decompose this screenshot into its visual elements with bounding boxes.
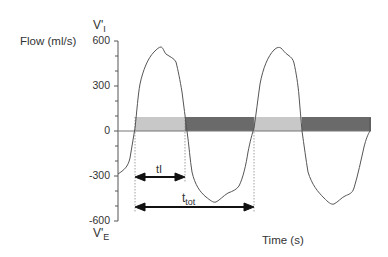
y-tick-300: 300 <box>80 79 110 91</box>
ti-label: tI <box>156 163 162 175</box>
y-axis <box>114 41 118 221</box>
v-expired-label: V'E <box>93 226 109 242</box>
v-expired-sub: E <box>103 232 109 242</box>
inspiration-bar-1 <box>135 117 185 131</box>
y-tick-minus-600: -600 <box>80 214 110 226</box>
y-tick-minus-300: -300 <box>80 169 110 181</box>
inspiration-bar-2 <box>254 117 302 131</box>
flow-axis-label: Flow (ml/s) <box>20 35 76 47</box>
expiration-bar-1 <box>185 117 254 131</box>
y-tick-600: 600 <box>80 34 110 46</box>
v-inspired-label: V'I <box>93 18 106 34</box>
v-expired-main: V' <box>93 226 103 240</box>
v-inspired-main: V' <box>93 18 103 32</box>
phase-bars <box>135 117 371 131</box>
y-tick-0: 0 <box>80 124 110 136</box>
ttot-sub: tot <box>185 197 195 207</box>
ttot-label: ttot <box>182 191 195 207</box>
expiration-bar-2 <box>302 117 371 131</box>
time-axis-label: Time (s) <box>262 234 304 246</box>
v-inspired-sub: I <box>103 24 106 34</box>
